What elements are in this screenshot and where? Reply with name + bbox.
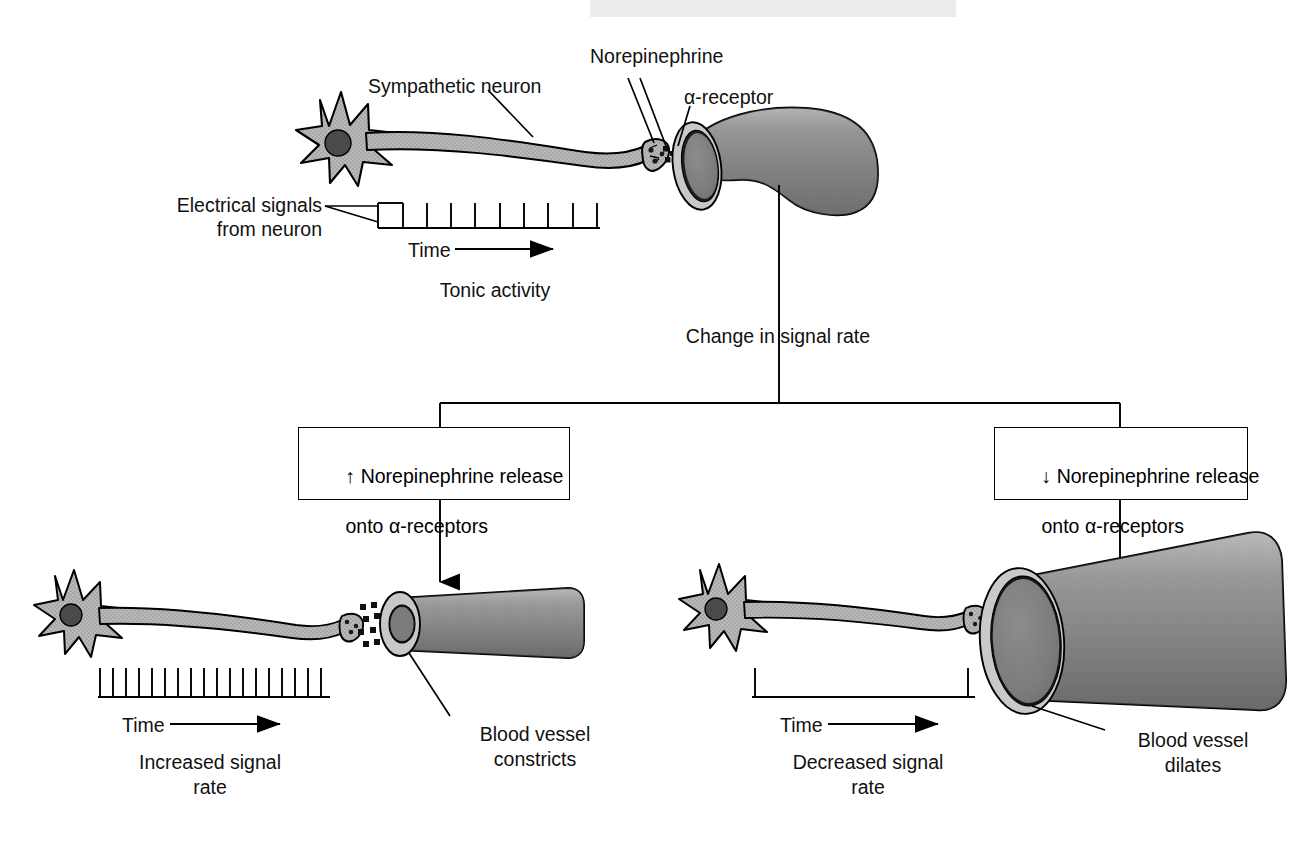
increased-signal-rate-caption-line1: Increased signal xyxy=(90,750,330,774)
increased-release-box: ↑ Norepinephrine release onto α-receptor… xyxy=(298,427,570,500)
alpha-receptor-label: α-receptor xyxy=(684,85,773,109)
diagram-artwork xyxy=(0,0,1304,847)
increased-release-line1: Norepinephrine release xyxy=(361,465,564,487)
norepinephrine-label: Norepinephrine xyxy=(590,44,723,68)
tonic-activity-caption: Tonic activity xyxy=(370,278,620,302)
blood-vessel-constricts-label-line1: Blood vessel xyxy=(440,722,630,746)
decreased-release-line1: Norepinephrine release xyxy=(1057,465,1260,487)
top-neuron-graphic xyxy=(296,78,878,215)
time-label-top: Time xyxy=(408,238,451,262)
time-label-bottom-right: Time xyxy=(780,713,823,737)
figure-canvas: Sympathetic neuron Norepinephrine α-rece… xyxy=(0,0,1304,847)
blood-vessel-dilates-label-line2: dilates xyxy=(1098,753,1288,777)
time-label-bottom-left: Time xyxy=(122,713,165,737)
electrical-signals-label-line2: from neuron xyxy=(104,217,322,241)
increased-release-text: ↑ Norepinephrine release onto α-receptor… xyxy=(313,439,563,564)
bottom-left-neuron-graphic xyxy=(34,570,584,716)
decreased-release-text: ↓ Norepinephrine release onto α-receptor… xyxy=(1009,439,1259,564)
increased-rate-spike-train xyxy=(98,668,330,697)
decreased-signal-rate-caption-line1: Decreased signal xyxy=(748,750,988,774)
decreased-release-box: ↓ Norepinephrine release onto α-receptor… xyxy=(994,427,1248,500)
increased-signal-rate-caption-line2: rate xyxy=(90,775,330,799)
sympathetic-neuron-label: Sympathetic neuron xyxy=(368,74,541,98)
change-in-signal-rate-label: Change in signal rate xyxy=(613,324,943,348)
up-arrow-icon: ↑ xyxy=(346,465,356,487)
electrical-signals-leader xyxy=(325,206,378,222)
blood-vessel-dilates-label-line1: Blood vessel xyxy=(1098,728,1288,752)
decreased-release-line2: onto α-receptors xyxy=(1042,515,1184,537)
electrical-signals-label-line1: Electrical signals xyxy=(104,193,322,217)
blood-vessel-constricts-label-line2: constricts xyxy=(440,747,630,771)
decreased-signal-rate-caption-line2: rate xyxy=(748,775,988,799)
increased-release-line2: onto α-receptors xyxy=(346,515,488,537)
down-arrow-icon: ↓ xyxy=(1042,465,1052,487)
decreased-rate-spike-train xyxy=(752,668,975,697)
tonic-spike-train xyxy=(378,203,600,228)
